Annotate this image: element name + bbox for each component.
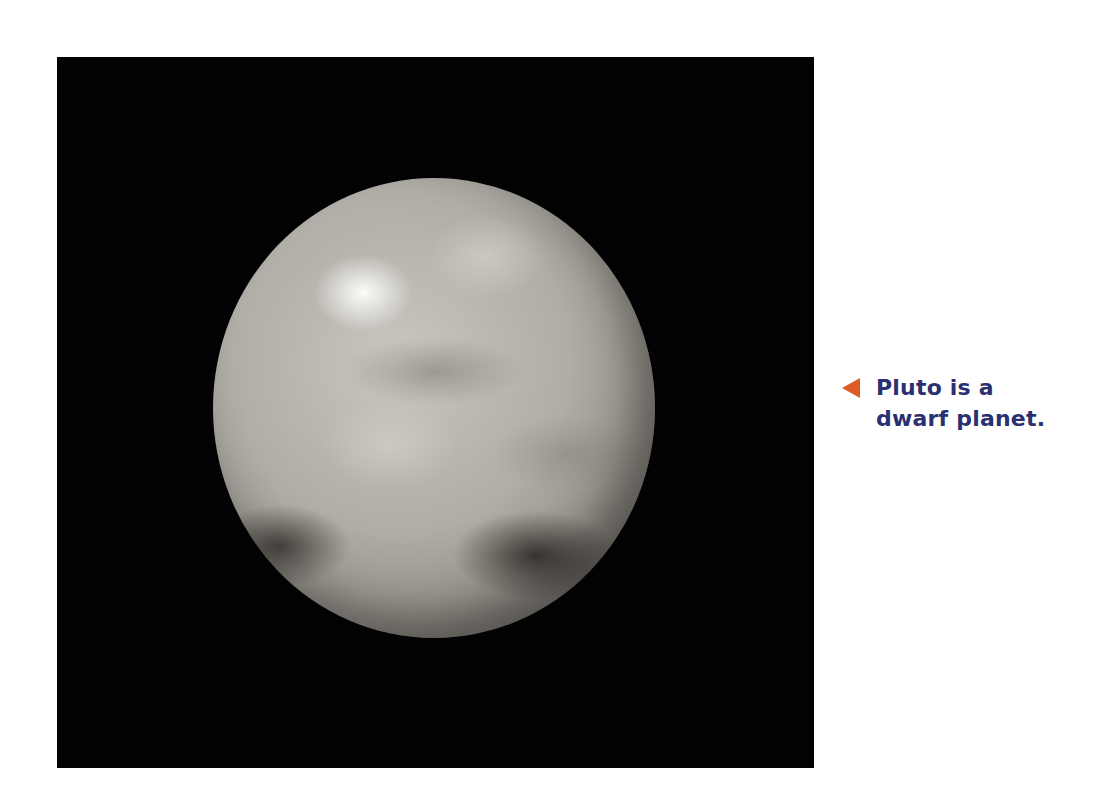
caption-line-1: Pluto is a (876, 372, 1045, 403)
left-triangle-pointer-icon (842, 378, 860, 398)
pluto-planet-image (213, 178, 655, 638)
caption-line-2: dwarf planet. (876, 403, 1045, 434)
photo-caption: Pluto is a dwarf planet. (842, 372, 1045, 434)
pluto-photo-panel (57, 57, 814, 768)
caption-text: Pluto is a dwarf planet. (876, 372, 1045, 434)
